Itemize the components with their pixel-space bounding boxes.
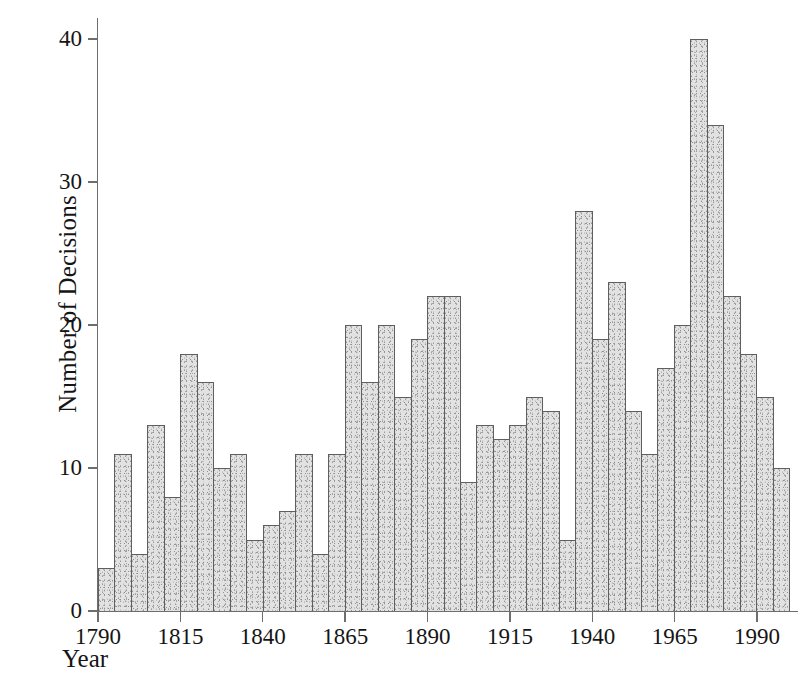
x-axis-tick (674, 611, 675, 622)
y-axis-tick (88, 181, 98, 182)
bar (246, 540, 263, 612)
bar (608, 282, 625, 611)
bar (164, 497, 181, 611)
bar (773, 468, 790, 611)
bar (263, 525, 280, 611)
y-axis-tick-label: 20 (38, 312, 82, 338)
bar (509, 425, 526, 611)
y-axis-tick (88, 467, 98, 468)
bar (378, 325, 395, 611)
bar (328, 454, 345, 611)
x-axis-tick (756, 611, 757, 622)
bar (740, 354, 757, 611)
bar (575, 211, 592, 611)
bar (131, 554, 148, 611)
bar (213, 468, 230, 611)
bar (641, 454, 658, 611)
x-axis-tick (509, 611, 510, 622)
y-axis-tick (88, 38, 98, 39)
y-axis-tick-label: 40 (38, 26, 82, 52)
x-axis-tick (344, 611, 345, 622)
bar (526, 397, 543, 612)
bar (197, 382, 214, 611)
bar (98, 568, 115, 611)
bar (361, 382, 378, 611)
bar (114, 454, 131, 611)
bar (690, 39, 707, 611)
bar (180, 354, 197, 611)
bar (444, 296, 461, 611)
x-axis-tick-label: 1890 (393, 624, 463, 650)
bar (723, 296, 740, 611)
x-axis-tick-label: 1990 (722, 624, 792, 650)
y-axis-tick-label: 30 (38, 169, 82, 195)
x-axis-tick-label: 1965 (640, 624, 710, 650)
x-axis-tick (427, 611, 428, 622)
bar (295, 454, 312, 611)
x-axis-tick-label: 1915 (475, 624, 545, 650)
bar (756, 397, 773, 612)
x-axis-tick-label: 1840 (228, 624, 298, 650)
x-axis-tick (97, 611, 98, 622)
x-axis-tick-label: 1815 (145, 624, 215, 650)
bar (279, 511, 296, 611)
y-axis-tick (88, 324, 98, 325)
y-axis-tick-label: 0 (38, 598, 82, 624)
bar (657, 368, 674, 611)
bar (674, 325, 691, 611)
bar (411, 339, 428, 611)
x-axis-tick-label: 1940 (557, 624, 627, 650)
bar (559, 540, 576, 612)
bar (312, 554, 329, 611)
x-axis-tick (592, 611, 593, 622)
x-axis-tick-label: 1790 (63, 624, 133, 650)
bar (476, 425, 493, 611)
plot-area (98, 20, 790, 611)
bar (230, 454, 247, 611)
bar (542, 411, 559, 611)
bar (625, 411, 642, 611)
x-axis-tick (262, 611, 263, 622)
bar (345, 325, 362, 611)
x-axis-tick-label: 1865 (310, 624, 380, 650)
bar-series (98, 20, 790, 611)
bar (460, 482, 477, 611)
bar (707, 125, 724, 611)
bar (493, 439, 510, 611)
x-axis-tick (180, 611, 181, 622)
histogram-figure: Number of Decisions Year 010203040 17901… (0, 0, 807, 682)
bar (427, 296, 444, 611)
bar (147, 425, 164, 611)
bar (592, 339, 609, 611)
bar (394, 397, 411, 612)
y-axis-tick-label: 10 (38, 455, 82, 481)
